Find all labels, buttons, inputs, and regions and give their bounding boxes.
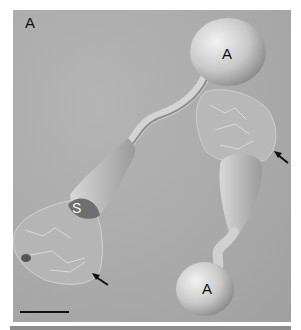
cell-label-s: S [72, 201, 81, 215]
arrow-right-icon [274, 151, 288, 163]
micrograph-drawing [0, 0, 301, 330]
cell-label-top: A [222, 46, 232, 61]
bottom-edge-strip [10, 326, 291, 330]
arrow-bottom-left-icon [92, 273, 108, 285]
cone-right [219, 154, 262, 235]
cell-label-bottom: A [202, 281, 212, 296]
panel-label: A [25, 15, 35, 30]
membrane-sheet-right [196, 90, 276, 164]
